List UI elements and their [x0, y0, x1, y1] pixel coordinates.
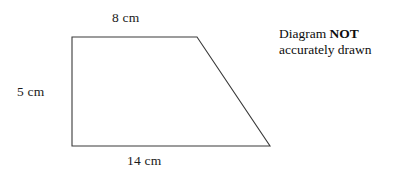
note-emphasis-not: NOT — [330, 26, 359, 41]
not-accurately-drawn-note: Diagram NOT accurately drawn — [279, 26, 399, 58]
note-line-one: Diagram NOT — [279, 26, 399, 42]
note-line-one-prefix: Diagram — [279, 26, 330, 41]
bottom-side-length-label: 14 cm — [127, 153, 161, 168]
diagram-page: 8 cm 5 cm 14 cm Diagram NOT accurately d… — [0, 0, 407, 180]
note-line-two: accurately drawn — [279, 42, 399, 58]
trapezium-outline — [72, 37, 270, 146]
left-side-length-label: 5 cm — [17, 84, 44, 99]
top-side-length-label: 8 cm — [112, 10, 139, 25]
